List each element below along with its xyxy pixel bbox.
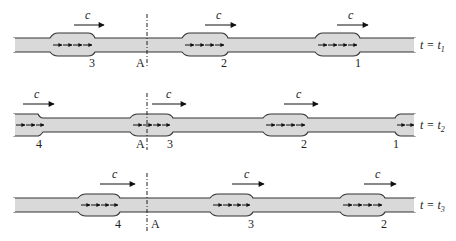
pulse-label: 4 bbox=[115, 217, 121, 231]
speed-label: c bbox=[112, 167, 118, 181]
point-a-label: A bbox=[136, 56, 145, 70]
pulse-label: 1 bbox=[393, 137, 399, 151]
time-label: t = t1 bbox=[420, 38, 445, 54]
speed-label: c bbox=[375, 167, 381, 181]
time-label: t = t2 bbox=[420, 118, 445, 134]
pulse-label: 1 bbox=[355, 56, 361, 70]
time-label: t = t3 bbox=[420, 198, 445, 214]
row-t3: c c c 4 3 2 A t = t3 bbox=[14, 167, 445, 232]
speed-label: c bbox=[244, 167, 250, 181]
tube bbox=[14, 114, 415, 136]
row-t1: c c c 3 2 1 A t = t1 bbox=[14, 8, 445, 70]
pulse-label: 3 bbox=[89, 56, 95, 70]
speed-label: c bbox=[348, 8, 354, 22]
speed-label: c bbox=[166, 87, 172, 101]
pulse-diagram: c c c 3 2 1 A t = t1 c c c 4 3 2 bbox=[0, 0, 456, 241]
pulse-label: 2 bbox=[221, 56, 227, 70]
speed-label: c bbox=[85, 8, 91, 22]
pulse-label: 3 bbox=[167, 137, 173, 151]
pulse-label: 4 bbox=[36, 137, 42, 151]
pulse-label: 3 bbox=[248, 217, 254, 231]
speed-label: c bbox=[34, 87, 40, 101]
point-a-label: A bbox=[136, 137, 145, 151]
speed-label: c bbox=[216, 8, 222, 22]
pulse-label: 2 bbox=[381, 217, 387, 231]
row-t2: c c c 4 3 2 1 A t = t2 bbox=[14, 87, 445, 151]
speed-label: c bbox=[296, 87, 302, 101]
point-a-label: A bbox=[151, 217, 160, 231]
pulse-label: 2 bbox=[301, 137, 307, 151]
